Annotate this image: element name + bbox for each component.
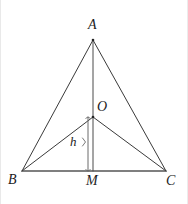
vertex-label-B: B	[8, 173, 17, 187]
height-label-pointer-icon	[83, 138, 86, 146]
vertex-label-O: O	[97, 100, 107, 114]
segment-OB-line	[22, 117, 93, 171]
vertex-label-M: M	[86, 174, 98, 188]
vertex-O-point	[92, 116, 95, 119]
segment-OC-line	[93, 117, 166, 171]
vertex-label-A: A	[88, 18, 97, 32]
side-AB-line	[22, 40, 93, 171]
geometry-figure: A O h B M C	[0, 0, 188, 204]
height-label-h: h	[70, 135, 77, 148]
vertex-A-point	[92, 39, 95, 42]
vertex-label-C: C	[166, 174, 175, 188]
